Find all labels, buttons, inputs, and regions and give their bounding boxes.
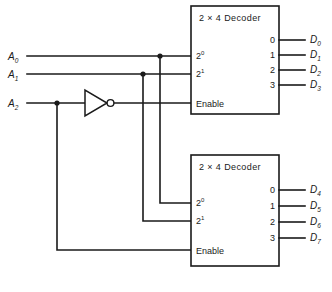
bottom-decoder-outnum-0: 0 (270, 185, 275, 195)
not-gate-bubble-icon (107, 100, 114, 107)
output-label-d1: D1 (310, 49, 321, 62)
top-decoder-outnum-2: 2 (270, 65, 275, 75)
bottom-decoder-outnum-2: 2 (270, 217, 275, 227)
bottom-decoder-enable-label: Enable (196, 246, 224, 256)
wire-a2-to-bottom-enable (57, 103, 191, 250)
output-label-d0: D0 (310, 34, 321, 47)
top-decoder-outnum-3: 3 (270, 80, 275, 90)
top-decoder-title: 2 × 4 Decoder (199, 13, 261, 23)
wire-a0-branch (160, 56, 191, 203)
bottom-decoder-outnum-3: 3 (270, 233, 275, 243)
output-label-d7: D7 (310, 232, 321, 245)
top-decoder-outnum-0: 0 (270, 35, 275, 45)
output-label-d5: D5 (310, 200, 321, 213)
top-decoder-outnum-1: 1 (270, 50, 275, 60)
output-label-d2: D2 (310, 64, 321, 77)
output-label-d4: D4 (310, 184, 321, 197)
input-label-a2: A2 (7, 98, 19, 111)
output-label-d3: D3 (310, 79, 321, 92)
junction-dot-a0 (157, 53, 162, 58)
circuit-canvas: A0 A1 A2 2 × 4 Decoder 20 21 Enable 0 1 … (0, 0, 332, 292)
circuit-diagram: A0 A1 A2 2 × 4 Decoder 20 21 Enable 0 1 … (0, 0, 332, 292)
input-label-a0: A0 (7, 51, 19, 64)
not-gate-triangle (85, 90, 107, 116)
top-decoder-enable-label: Enable (196, 99, 224, 109)
input-label-a1: A1 (7, 69, 19, 82)
output-label-d6: D6 (310, 216, 321, 229)
bottom-decoder-title: 2 × 4 Decoder (199, 162, 261, 172)
wire-a1-branch (143, 74, 191, 221)
bottom-decoder-outnum-1: 1 (270, 201, 275, 211)
junction-dot-a1 (140, 71, 145, 76)
junction-dot-a2 (54, 100, 59, 105)
